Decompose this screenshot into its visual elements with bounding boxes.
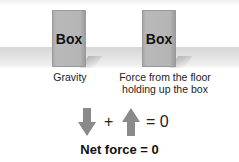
background-band — [0, 0, 239, 6]
box-gravity: Box — [52, 10, 86, 67]
box-label: Box — [53, 31, 85, 47]
caption-floor-force: Force from the floor holding up the box — [110, 71, 220, 95]
box-label: Box — [143, 31, 175, 47]
up-arrow-icon — [122, 107, 140, 137]
down-arrow-icon — [78, 107, 96, 137]
net-force-conclusion: Net force = 0 — [0, 142, 239, 157]
box-floor-force: Box — [142, 10, 176, 67]
caption-line: Force from the floor — [110, 71, 220, 83]
caption-gravity: Gravity — [40, 71, 100, 83]
plus-sign: + — [104, 107, 113, 137]
floor — [0, 47, 239, 69]
equals-zero: = 0 — [146, 107, 169, 137]
caption-line: holding up the box — [110, 83, 220, 95]
